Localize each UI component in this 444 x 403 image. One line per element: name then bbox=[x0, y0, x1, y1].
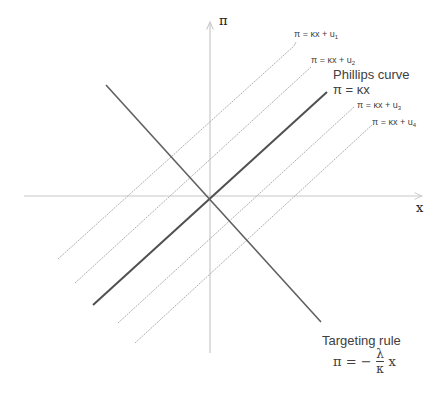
leader-u1 bbox=[294, 42, 296, 46]
targeting-rule-title: Targeting rule bbox=[322, 333, 401, 348]
phillips-curve-equation: π = κx bbox=[333, 82, 370, 97]
label-shock-u4: π = κx + u4 bbox=[372, 117, 416, 128]
targeting-rule-equation: π = − λ κ x bbox=[333, 348, 396, 375]
targeting-eq-rhs: x bbox=[389, 354, 396, 369]
shock-line-u3 bbox=[118, 107, 354, 323]
targeting-eq-denominator: κ bbox=[376, 363, 384, 375]
x-axis-label: x bbox=[416, 200, 423, 215]
y-axis-label: π bbox=[219, 13, 228, 28]
label-shock-u2: π = κx + u2 bbox=[311, 55, 355, 66]
label-shock-u4-main: π = κx + u bbox=[372, 117, 413, 127]
label-shock-u1-sub: 1 bbox=[335, 34, 338, 40]
label-shock-u1: π = κx + u1 bbox=[294, 29, 338, 40]
label-shock-u2-main: π = κx + u bbox=[311, 55, 352, 65]
label-shock-u3-main: π = κx + u bbox=[357, 100, 398, 110]
targeting-rule-line bbox=[106, 85, 321, 322]
label-shock-u2-sub: 2 bbox=[352, 60, 355, 66]
label-shock-u3: π = κx + u3 bbox=[357, 100, 401, 111]
label-shock-u4-sub: 4 bbox=[413, 122, 416, 128]
label-shock-u3-sub: 3 bbox=[398, 105, 401, 111]
shock-line-u1 bbox=[58, 46, 294, 259]
label-shock-u1-main: π = κx + u bbox=[294, 29, 335, 39]
targeting-eq-lhs: π = − bbox=[333, 354, 372, 369]
shock-line-u2 bbox=[75, 67, 311, 283]
phillips-curve-title: Phillips curve bbox=[333, 67, 410, 82]
targeting-eq-numerator: λ bbox=[376, 348, 384, 360]
targeting-eq-fraction: λ κ bbox=[376, 348, 384, 375]
